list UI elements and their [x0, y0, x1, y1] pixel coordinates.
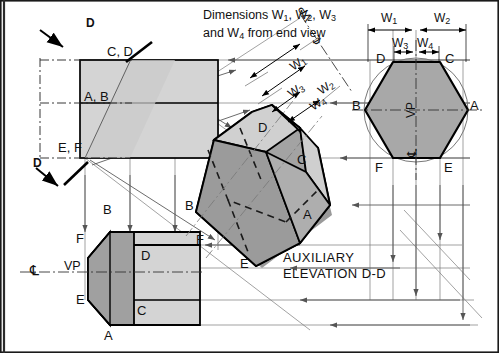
- elevation-label-ab: A, B: [84, 89, 109, 104]
- plan-vertex-b: B: [103, 202, 112, 217]
- section-label-d-top: D: [86, 16, 95, 30]
- aux-vertex-b: B: [185, 198, 194, 213]
- dimension-w3-endview: W3: [392, 36, 408, 51]
- plan-vertex-c: C: [137, 303, 146, 318]
- endview-vertex-e: E: [444, 160, 453, 175]
- auxiliary-view-title: AUXILIARY ELEVATION D-D: [283, 250, 386, 282]
- aux-vertex-d: D: [258, 120, 267, 135]
- plan-vertex-d: D: [141, 248, 150, 263]
- plan-vertex-f: F: [76, 231, 84, 246]
- dimension-w1-endview: W1: [381, 11, 397, 26]
- plan-vertex-e: E: [76, 292, 85, 307]
- engineering-drawing-svg: [0, 0, 499, 353]
- auxiliary-title-line-2: ELEVATION D-D: [283, 266, 386, 281]
- aux-vertex-f: F: [196, 232, 204, 247]
- plan-vp-label: VP: [64, 259, 81, 273]
- dimension-w4-endview: W4: [417, 36, 433, 51]
- endview-vertex-b: B: [352, 98, 361, 113]
- note-line-2: and W4 from end view: [203, 26, 325, 40]
- auxiliary-title-line-1: AUXILIARY: [283, 250, 354, 265]
- endview-vertex-a: A: [470, 98, 479, 113]
- endview-vp-label: VP: [404, 102, 418, 118]
- drawing-canvas: Dimensions W1, W2, W3 and W4 from end vi…: [0, 0, 499, 353]
- endview-vertex-d: D: [376, 51, 385, 66]
- aux-vertex-c: C: [297, 152, 306, 167]
- plan-vertex-a: A: [104, 328, 113, 343]
- endview-centreline-symbol: ℄: [404, 149, 419, 157]
- aux-vertex-a: A: [303, 207, 312, 222]
- elevation-label-ef: E, F: [58, 140, 82, 155]
- endview-vertex-f: F: [375, 160, 383, 175]
- section-label-d-bottom: D: [33, 156, 42, 170]
- elevation-label-cd: C, D: [107, 44, 133, 59]
- aux-vertex-e: E: [240, 256, 249, 271]
- plan-centreline-symbol: ℄: [30, 262, 39, 278]
- endview-vertex-c: C: [445, 51, 454, 66]
- dimension-w2-endview: W2: [434, 11, 450, 26]
- note-line-1: Dimensions W1, W2, W3: [203, 8, 336, 22]
